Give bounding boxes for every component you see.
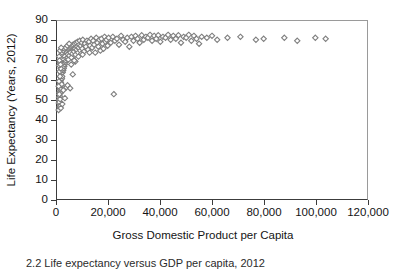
scatter-point [178,40,183,45]
scatter-point [225,35,230,40]
y-axis-tick-label: 50 [35,94,48,106]
y-axis-tick-label: 70 [35,54,48,66]
scatter-point [214,37,219,42]
scatter-point [111,92,116,97]
x-axis-tick [108,200,109,205]
y-axis-title-text: Life Expectancy (Years, 2012) [5,34,17,187]
y-axis-tick-label: 20 [35,154,48,166]
x-axis-tick [316,200,317,205]
y-axis-tick-label: 60 [35,74,48,86]
scatter-point [282,35,287,40]
scatter-point [196,41,201,46]
x-axis-tick-label: 40,000 [142,207,177,219]
scatter-point [127,44,132,49]
x-axis-tick [160,200,161,205]
x-axis-tick-label: 120,000 [347,207,389,219]
x-axis-tick [212,200,213,205]
y-axis-tick [51,120,56,121]
scatter-point [323,36,328,41]
plot-area [56,20,368,200]
y-axis-tick [51,160,56,161]
y-axis-tick [51,180,56,181]
x-axis-tick [368,200,369,205]
y-axis-tick [51,80,56,81]
scatter-point [70,72,75,77]
y-axis-tick-label: 80 [35,34,48,46]
y-axis-title: Life Expectancy (Years, 2012) [2,20,20,200]
x-axis-tick-label: 0 [53,207,59,219]
y-axis-tick [51,100,56,101]
x-axis-tick [264,200,265,205]
y-axis-tick [51,60,56,61]
scatter-points-layer [57,21,367,199]
x-axis-tick-label: 100,000 [295,207,337,219]
x-axis-tick-label: 20,000 [90,207,125,219]
scatter-point [253,37,258,42]
scatter-point [295,38,300,43]
figure-caption-text: 2.2 Life expectancy versus GDP per capit… [26,258,386,269]
scatter-point [261,36,266,41]
y-axis-tick-label: 90 [35,14,48,26]
scatter-point [313,35,318,40]
chart-figure: 0102030405060708090020,00040,00060,00080… [0,0,406,269]
y-axis-tick-label: 40 [35,114,48,126]
y-axis-tick [51,20,56,21]
x-axis-title: Gross Domestic Product per Capita [0,229,406,241]
y-axis-tick [51,140,56,141]
scatter-point [238,34,243,39]
y-axis-tick-label: 10 [35,174,48,186]
figure-caption: 2.2 Life expectancy versus GDP per capit… [26,258,386,269]
x-axis-tick-label: 80,000 [246,207,281,219]
y-axis-tick-label: 0 [42,194,48,206]
x-axis-tick-label: 60,000 [194,207,229,219]
y-axis-tick [51,40,56,41]
scatter-point [116,42,121,47]
y-axis-tick-label: 30 [35,134,48,146]
x-axis-tick [56,200,57,205]
